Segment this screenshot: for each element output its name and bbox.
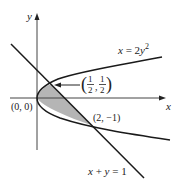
- x-axis-label: x: [165, 100, 171, 112]
- svg-text:1: 1: [100, 74, 105, 84]
- diagram-canvas: y x (0, 0) x = 2y2 x + y = 1 ( 1 2 , 1 2…: [0, 0, 184, 193]
- svg-text:(: (: [81, 74, 87, 95]
- x-axis-arrow-icon: [159, 96, 166, 101]
- y-axis-arrow-icon: [35, 13, 40, 20]
- svg-text:1: 1: [88, 74, 93, 84]
- lower-intersection-label: (2, −1): [93, 112, 120, 124]
- svg-text:2: 2: [100, 85, 105, 95]
- svg-text:): ): [106, 74, 112, 95]
- svg-text:2: 2: [88, 85, 93, 95]
- upper-intersection-label: ( 1 2 , 1 2 ): [81, 74, 112, 95]
- svg-text:,: ,: [95, 81, 98, 92]
- line-equation-label: x + y = 1: [87, 165, 127, 177]
- pointer-arrow-icon: [54, 83, 61, 88]
- region-diagram: y x (0, 0) x = 2y2 x + y = 1 ( 1 2 , 1 2…: [0, 0, 184, 193]
- origin-label: (0, 0): [11, 101, 33, 113]
- parabola-equation-label: x = 2y2: [117, 42, 149, 56]
- y-axis-label: y: [26, 10, 32, 22]
